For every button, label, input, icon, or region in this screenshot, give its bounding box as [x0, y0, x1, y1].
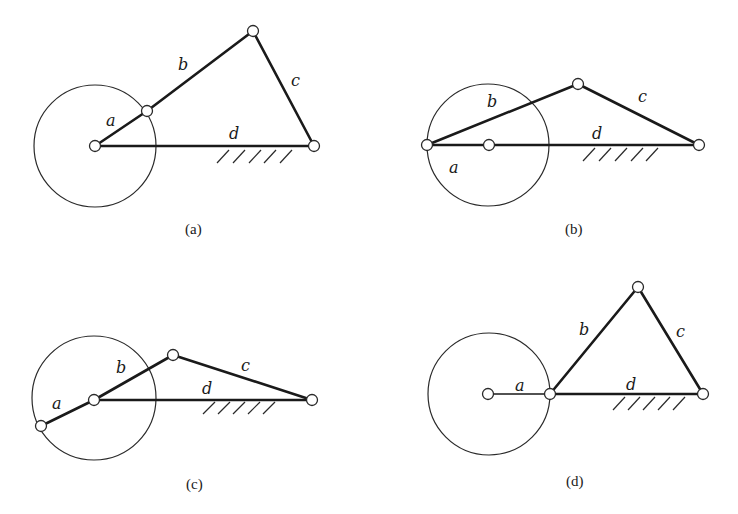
link-b-coupler: [147, 31, 253, 111]
link-a-crank: [41, 400, 94, 426]
pivot-joint-icon: [694, 140, 705, 151]
pivot-joint-icon: [633, 282, 644, 293]
ground-hatch-icon: [203, 402, 275, 414]
ground-hatch-icon: [217, 150, 292, 163]
label-a: a: [515, 376, 525, 395]
label-d: d: [626, 375, 636, 394]
pivot-joint-icon: [545, 389, 556, 400]
label-c: c: [676, 322, 685, 341]
pivot-joint-icon: [309, 141, 320, 152]
pivot-joint-icon: [573, 79, 584, 90]
link-c-rocker: [253, 31, 314, 146]
pivot-joint-icon: [248, 26, 259, 37]
panel-b: a b c d (b): [422, 79, 705, 239]
pivot-joint-icon: [168, 350, 179, 361]
pivot-joint-icon: [698, 389, 709, 400]
link-c-rocker: [638, 287, 703, 394]
panel-a: a b c d (a): [34, 26, 320, 239]
pivot-joint-icon: [483, 389, 494, 400]
four-bar-linkage-figure: a b c d (a) a b c d (b): [0, 0, 738, 514]
link-a-crank: [95, 111, 147, 146]
label-b: b: [116, 358, 126, 377]
label-c: c: [291, 71, 300, 90]
label-b: b: [579, 320, 589, 339]
link-b-coupler: [550, 287, 638, 394]
link-b-coupler: [94, 355, 173, 400]
label-a: a: [449, 158, 459, 177]
ground-hatch-icon: [613, 397, 685, 410]
pivot-joint-icon: [307, 395, 318, 406]
panel-caption: (a): [185, 221, 202, 238]
pivot-joint-icon: [484, 140, 495, 151]
panel-caption: (b): [565, 221, 583, 238]
label-d: d: [592, 124, 602, 143]
link-b-coupler: [427, 84, 578, 145]
label-d: d: [229, 124, 239, 143]
panel-c: a b c d (c): [32, 336, 318, 493]
label-b: b: [487, 92, 497, 111]
ground-hatch-icon: [583, 148, 658, 161]
pivot-joint-icon: [90, 141, 101, 152]
pivot-joint-icon: [89, 395, 100, 406]
panel-caption: (d): [566, 473, 584, 490]
label-c: c: [638, 87, 647, 106]
label-d: d: [202, 379, 212, 398]
label-a: a: [106, 111, 116, 130]
panel-d: a b c d (d): [428, 282, 709, 491]
pivot-joint-icon: [422, 140, 433, 151]
pivot-joint-icon: [36, 421, 47, 432]
label-b: b: [178, 55, 188, 74]
label-a: a: [52, 394, 62, 413]
pivot-joint-icon: [142, 106, 153, 117]
panel-caption: (c): [186, 476, 203, 493]
label-c: c: [241, 356, 250, 375]
